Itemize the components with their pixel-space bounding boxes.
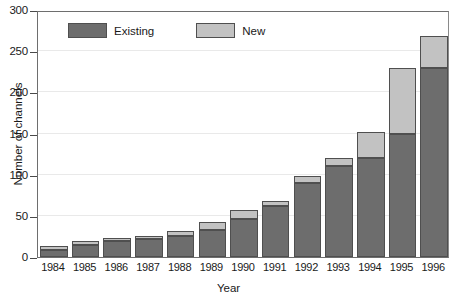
bar-segment-new xyxy=(325,158,353,166)
bar-segment-existing xyxy=(262,206,290,257)
bar-segment-new xyxy=(167,231,195,235)
bar-chart: 050100150200250300 Number of channels 19… xyxy=(0,0,457,301)
x-axis-label: 1996 xyxy=(417,261,449,273)
y-axis-tick xyxy=(30,176,37,177)
plot-area xyxy=(37,11,449,258)
legend-swatch xyxy=(68,23,107,38)
legend-swatch xyxy=(196,23,235,38)
bar-segment-existing xyxy=(294,183,322,257)
x-axis-label: 1988 xyxy=(164,261,196,273)
x-axis-label: 1990 xyxy=(227,261,259,273)
bar-group xyxy=(135,10,163,257)
bar-segment-existing xyxy=(103,241,131,257)
bar-segment-new xyxy=(72,241,100,245)
y-axis-tick xyxy=(30,11,37,12)
bar-segment-existing xyxy=(325,166,353,257)
legend-label: Existing xyxy=(114,25,154,37)
legend-item: Existing xyxy=(68,23,154,38)
bar-segment-new xyxy=(420,36,448,67)
bar-segment-existing xyxy=(230,219,258,257)
bar-segment-new xyxy=(357,132,385,158)
bar-segment-existing xyxy=(420,68,448,257)
bar-segment-new xyxy=(262,201,290,206)
y-axis-label: 300 xyxy=(0,4,28,16)
bar-segment-new xyxy=(389,68,417,134)
x-axis-label: 1995 xyxy=(386,261,418,273)
bar-group xyxy=(325,10,353,257)
bar-group xyxy=(420,10,448,257)
bar-group xyxy=(294,10,322,257)
x-axis-label: 1985 xyxy=(69,261,101,273)
bar-segment-existing xyxy=(72,245,100,257)
y-axis-label: 0 xyxy=(0,251,28,263)
chart-legend: ExistingNew xyxy=(68,23,265,38)
y-axis-tick xyxy=(30,52,37,53)
bar-group xyxy=(262,10,290,257)
bar-segment-new xyxy=(294,176,322,183)
x-axis-label: 1986 xyxy=(100,261,132,273)
x-axis-label: 1992 xyxy=(291,261,323,273)
bar-group xyxy=(103,10,131,257)
y-axis-title: Number of channels xyxy=(12,54,24,214)
bar-segment-new xyxy=(199,222,227,230)
bar-group xyxy=(72,10,100,257)
x-axis-label: 1994 xyxy=(354,261,386,273)
bar-group xyxy=(230,10,258,257)
bar-group xyxy=(389,10,417,257)
bar-group xyxy=(167,10,195,257)
x-axis-label: 1987 xyxy=(132,261,164,273)
x-axis-label: 1989 xyxy=(195,261,227,273)
bar-segment-new xyxy=(103,238,131,241)
bar-segment-new xyxy=(135,236,163,239)
bar-segment-existing xyxy=(167,236,195,257)
bar-segment-existing xyxy=(357,158,385,257)
y-axis-tick xyxy=(30,217,37,218)
bar-group xyxy=(199,10,227,257)
x-axis-label: 1984 xyxy=(37,261,69,273)
x-axis-label: 1993 xyxy=(322,261,354,273)
bar-segment-existing xyxy=(40,250,68,257)
bar-segment-new xyxy=(230,210,258,219)
bar-segment-new xyxy=(40,246,68,249)
y-axis-tick xyxy=(30,258,37,259)
bar-group xyxy=(357,10,385,257)
y-axis-tick xyxy=(30,93,37,94)
bar-segment-existing xyxy=(135,239,163,257)
legend-item: New xyxy=(196,23,265,38)
y-axis-tick xyxy=(30,135,37,136)
x-axis-title: Year xyxy=(0,282,457,294)
bar-group xyxy=(40,10,68,257)
bar-segment-existing xyxy=(199,230,227,257)
x-axis-label: 1991 xyxy=(259,261,291,273)
bar-segment-existing xyxy=(389,134,417,258)
legend-label: New xyxy=(242,25,265,37)
